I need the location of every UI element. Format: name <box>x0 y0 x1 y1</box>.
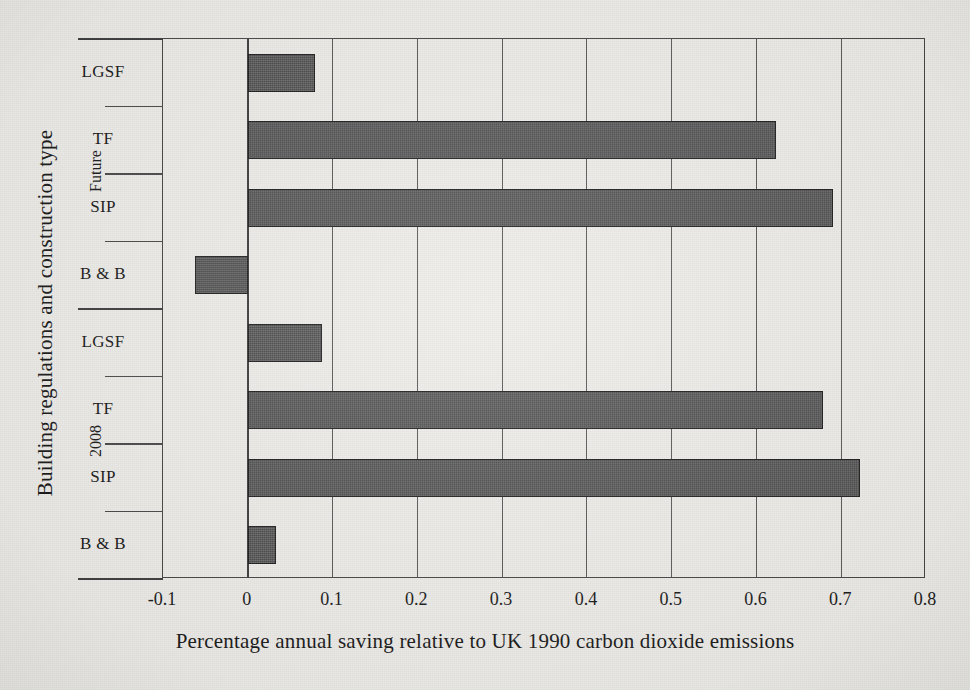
y-axis-tick <box>105 173 163 175</box>
y-axis-tick-label-text: LGSF <box>82 332 125 352</box>
y-axis-group-bracket-tick <box>78 38 163 40</box>
y-axis-group-label: Future <box>87 91 105 251</box>
y-axis-group-divider-tick <box>78 308 163 310</box>
y-axis-tick-label: B & B <box>43 534 163 554</box>
bar <box>248 526 276 564</box>
y-axis-tick <box>105 511 163 513</box>
y-axis-tick-label: LGSF <box>43 62 163 82</box>
y-axis-tick-label-text: B & B <box>80 534 126 554</box>
bar <box>248 324 322 362</box>
x-axis-tick-label: 0.4 <box>551 588 621 610</box>
x-axis-tick-label: 0.2 <box>381 588 451 610</box>
y-axis-tick <box>105 443 163 445</box>
x-axis-tick-label: 0.1 <box>297 588 367 610</box>
bar <box>248 391 823 429</box>
bar <box>248 189 833 227</box>
x-axis-tick-label: 0.3 <box>466 588 536 610</box>
x-axis-title: Percentage annual saving relative to UK … <box>0 628 970 654</box>
y-axis-tick <box>105 376 163 378</box>
bar <box>195 256 248 294</box>
y-axis-tick-label: LGSF <box>43 332 163 352</box>
y-axis-tick-label: B & B <box>43 264 163 284</box>
x-axis-tick-label: 0.6 <box>720 588 790 610</box>
x-axis-tick-label: 0.5 <box>636 588 706 610</box>
x-axis-tick-label: 0.8 <box>890 588 960 610</box>
y-axis-group-bracket-tick <box>78 578 163 580</box>
plot-area <box>162 38 925 578</box>
figure: LGSFTFSIPB & BLGSFTFSIPB & B Future2008 … <box>0 0 970 690</box>
y-axis-tick <box>105 106 163 108</box>
y-axis-tick <box>105 241 163 243</box>
bar <box>248 54 315 92</box>
y-axis-tick-label-text: B & B <box>80 264 126 284</box>
bar <box>248 459 860 497</box>
x-axis-tick-label: -0.1 <box>127 588 197 610</box>
x-axis-tick-label: 0 <box>212 588 282 610</box>
y-axis-tick-label-text: LGSF <box>82 62 125 82</box>
x-axis-tick-label: 0.7 <box>805 588 875 610</box>
y-axis-title: Building regulations and construction ty… <box>32 13 58 613</box>
bar <box>248 121 776 159</box>
y-axis-group-label: 2008 <box>87 361 105 521</box>
